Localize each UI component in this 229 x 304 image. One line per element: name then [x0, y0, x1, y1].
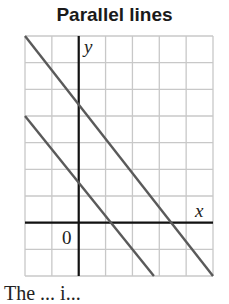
caption-text: The ... i... [4, 282, 81, 304]
y-axis-label: y [82, 36, 93, 57]
origin-label: 0 [62, 227, 72, 248]
x-axis-label: x [194, 200, 204, 221]
parallel-lines [25, 36, 213, 276]
line-upper-line [25, 36, 213, 276]
